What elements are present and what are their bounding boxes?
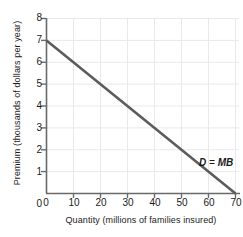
x-tick-50: 50 — [170, 198, 194, 208]
demand-curve-line — [47, 40, 236, 193]
y-axis-title: Premium (thousands of dollars per year) — [12, 13, 22, 193]
y-tick-7: 7 — [20, 35, 42, 45]
y-tick-1: 1 — [20, 167, 42, 177]
x-axis-tick-labels: 0 10 20 30 40 50 60 70 — [0, 198, 243, 212]
curve-annotation-equals: = — [206, 157, 217, 168]
y-tick-2: 2 — [20, 145, 42, 155]
x-tick-10: 10 — [62, 198, 86, 208]
x-tick-30: 30 — [116, 198, 140, 208]
y-tick-8: 8 — [20, 13, 42, 23]
chart-figure: 8 7 6 5 4 3 2 1 0 0 10 20 30 40 50 60 70… — [0, 0, 243, 237]
curve-annotation-mb: MB — [218, 157, 234, 168]
y-tick-6: 6 — [20, 57, 42, 67]
x-tick-60: 60 — [197, 198, 221, 208]
y-tick-3: 3 — [20, 123, 42, 133]
curve-annotation-d-mb: D = MB — [199, 157, 233, 168]
x-tick-20: 20 — [89, 198, 113, 208]
x-axis-title: Quantity (millions of families insured) — [46, 215, 236, 225]
y-tick-5: 5 — [20, 79, 42, 89]
x-tick-40: 40 — [143, 198, 167, 208]
grid-horizontal — [46, 19, 239, 172]
x-tick-70: 70 — [224, 198, 243, 208]
x-tick-0: 0 — [34, 198, 58, 208]
y-tick-4: 4 — [20, 101, 42, 111]
